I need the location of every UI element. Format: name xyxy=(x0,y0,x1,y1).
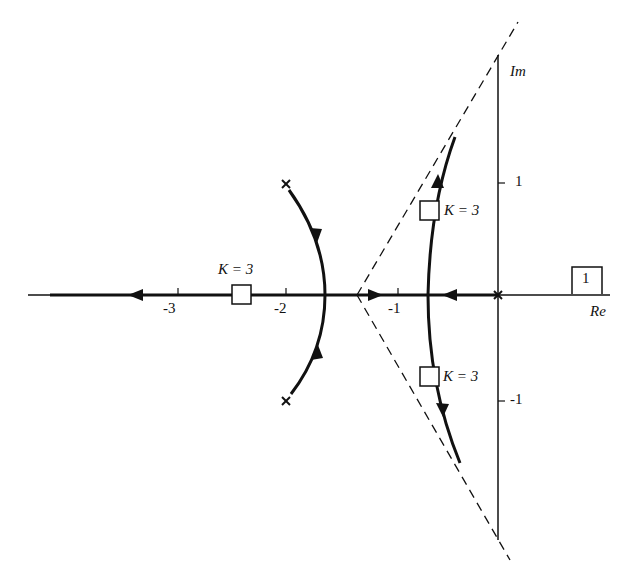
arrow-up-icon xyxy=(311,345,323,360)
gain-marker xyxy=(420,367,439,386)
gain-label: K = 3 xyxy=(218,261,253,278)
gain-label: K = 3 xyxy=(444,202,479,219)
arrow-down-icon xyxy=(310,228,322,243)
arrow-left-icon xyxy=(128,289,143,301)
tick-label-neg1: -1 xyxy=(388,300,401,317)
arrow-right-icon xyxy=(368,289,383,301)
asymptote-upper xyxy=(357,22,518,295)
arrow-down-icon xyxy=(436,403,449,417)
locus-left-arc xyxy=(289,190,325,394)
tick-label-neg3: -3 xyxy=(163,300,176,317)
tick-label-neg2: -2 xyxy=(274,300,287,317)
arrow-left-icon xyxy=(442,289,457,301)
gain-marker xyxy=(232,285,251,304)
asymptote-lower xyxy=(357,295,510,560)
root-locus-plot xyxy=(0,0,635,586)
imag-tick-1: 1 xyxy=(515,173,523,190)
imag-axis-label: Im xyxy=(510,63,526,80)
gain-marker xyxy=(420,201,439,220)
gain-label: K = 3 xyxy=(443,368,478,385)
imag-tick-neg1: -1 xyxy=(510,391,523,408)
real-axis-label: Re xyxy=(590,303,606,320)
figure-number: 1 xyxy=(582,270,590,287)
